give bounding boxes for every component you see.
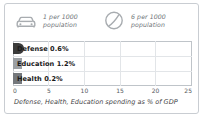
- x-tick-20: 20: [152, 87, 160, 94]
- bar-row-education: Education 1.2%: [13, 56, 192, 71]
- x-tick-0: 0: [13, 87, 17, 94]
- bar-row-defense: Defense 0.6%: [13, 41, 192, 56]
- bar-rows: Defense 0.6% Education 1.2% Health 0.2%: [13, 41, 192, 86]
- legend-item-cars: 1 per 1000 population: [14, 10, 78, 31]
- bar-chart-plot: Defense 0.6% Education 1.2% Health 0.2%: [13, 41, 192, 86]
- bar-label-education: Education 1.2%: [17, 56, 75, 71]
- bar-row-health: Health 0.2%: [13, 71, 192, 86]
- legend-label-cars: 1 per 1000 population: [43, 13, 78, 28]
- chart-caption: Defense, Health, Education spending as %…: [14, 98, 194, 106]
- x-tick-15: 15: [116, 87, 124, 94]
- legend: 1 per 1000 population 6 per 1000 populat…: [5, 4, 198, 37]
- bar-label-health: Health 0.2%: [17, 71, 63, 86]
- legend-label-other: 6 per 1000 population: [131, 13, 166, 28]
- x-axis: 0 5 10 15 20 25: [13, 87, 192, 96]
- x-tick-25: 25: [184, 87, 192, 94]
- car-icon: [14, 10, 38, 31]
- circle-slash-icon: [102, 10, 126, 31]
- bar-label-defense: Defense 0.6%: [17, 41, 69, 56]
- infographic-card: 1 per 1000 population 6 per 1000 populat…: [4, 3, 199, 114]
- x-tick-5: 5: [47, 87, 51, 94]
- legend-item-other: 6 per 1000 population: [102, 10, 166, 31]
- x-tick-10: 10: [81, 87, 89, 94]
